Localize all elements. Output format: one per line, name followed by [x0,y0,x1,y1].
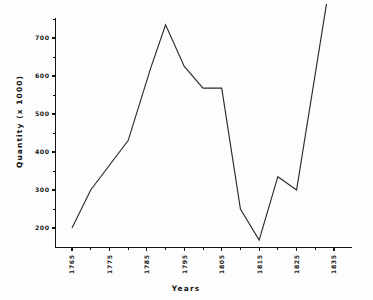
x-tick-label: 1805 [218,255,225,274]
x-tick-label: 1765 [68,255,75,274]
y-tick-label: 600 [35,72,50,79]
x-tick-label: 1795 [181,255,188,274]
x-axis-ticks: 17651775178517951805181518251835 [68,248,337,274]
chart-canvas: 200300400500600700 176517751785179518051… [0,0,373,300]
y-tick-label: 400 [35,148,50,155]
line-chart: 200300400500600700 176517751785179518051… [0,0,373,300]
x-tick-label: 1825 [293,255,300,274]
data-series-line [72,4,327,240]
x-tick-label: 1785 [143,255,150,274]
x-axis-title: Years [171,284,200,293]
y-tick-label: 200 [35,224,50,231]
y-tick-label: 500 [35,110,50,117]
x-tick-label: 1775 [106,255,113,274]
y-axis-title: Quantity (x 1000) [15,75,24,168]
x-tick-label: 1835 [330,255,337,274]
y-axis-ticks: 200300400500600700 [35,19,56,231]
y-tick-label: 300 [35,186,50,193]
x-tick-label: 1815 [256,255,263,274]
y-tick-label: 700 [35,34,50,41]
